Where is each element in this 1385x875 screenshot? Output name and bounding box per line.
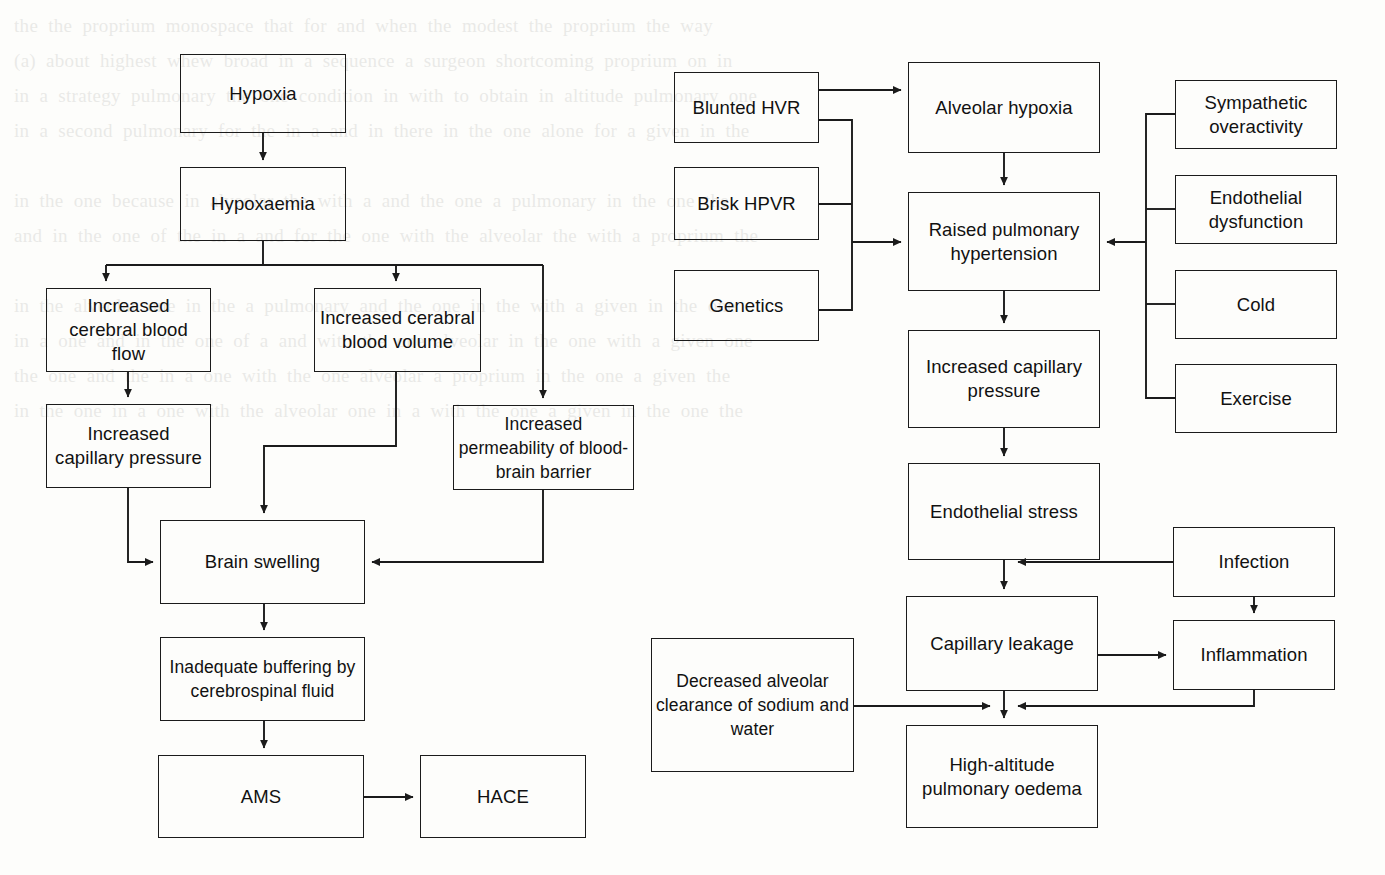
node-hypoxaemia[interactable]: Hypoxaemia — [180, 167, 346, 241]
node-high-altitude-pulmonary-oedema-label: High-altitude pulmonary oedema — [911, 753, 1093, 801]
node-increased-permeability-bbb-label: Increased permeability of blood-brain ba… — [458, 412, 629, 484]
node-inadequate-buffering-csf-label: Inadequate buffering by cerebrospinal fl… — [165, 655, 360, 703]
node-increased-capillary-pressure-cerebral[interactable]: Increased capillary pressure — [46, 404, 211, 488]
node-alveolar-hypoxia[interactable]: Alveolar hypoxia — [908, 62, 1100, 153]
edge-sympathetic-bus — [1146, 114, 1175, 242]
node-genetics-label: Genetics — [710, 294, 784, 318]
node-endothelial-dysfunction[interactable]: Endothelial dysfunction — [1175, 175, 1337, 244]
node-increased-cerebral-blood-flow-label: Increased cerebral blood flow — [51, 294, 206, 366]
edge-cbv-brain-swelling — [264, 372, 396, 513]
node-cold[interactable]: Cold — [1175, 270, 1337, 339]
node-inadequate-buffering-csf[interactable]: Inadequate buffering by cerebrospinal fl… — [160, 637, 365, 721]
node-inflammation-label: Inflammation — [1200, 643, 1307, 667]
edge-blunted-hvr-bus — [819, 120, 852, 242]
node-decreased-alveolar-clearance-label: Decreased alveolar clearance of sodium a… — [656, 669, 849, 741]
node-exercise[interactable]: Exercise — [1175, 364, 1337, 433]
edge-inflammation-hape — [1018, 690, 1254, 706]
node-increased-permeability-bbb[interactable]: Increased permeability of blood-brain ba… — [453, 405, 634, 490]
node-increased-capillary-pressure-pulmonary[interactable]: Increased capillary pressure — [908, 330, 1100, 428]
node-ams[interactable]: AMS — [158, 755, 364, 838]
edge-genetics-bus — [819, 242, 852, 310]
node-increased-cerebral-blood-volume[interactable]: Increased cerabral blood volume — [314, 288, 481, 372]
node-sympathetic-overactivity[interactable]: Sympathetic overactivity — [1175, 80, 1337, 149]
node-genetics[interactable]: Genetics — [674, 270, 819, 341]
node-brisk-hpvr[interactable]: Brisk HPVR — [674, 167, 819, 240]
node-increased-cerebral-blood-volume-label: Increased cerabral blood volume — [319, 306, 476, 354]
node-endothelial-stress-label: Endothelial stress — [930, 500, 1078, 524]
node-hypoxia[interactable]: Hypoxia — [180, 54, 346, 133]
node-decreased-alveolar-clearance[interactable]: Decreased alveolar clearance of sodium a… — [651, 638, 854, 772]
node-capillary-leakage-label: Capillary leakage — [930, 632, 1074, 656]
edge-perm-brain-swelling — [372, 490, 543, 562]
node-hace-label: HACE — [477, 785, 529, 809]
node-brain-swelling[interactable]: Brain swelling — [160, 520, 365, 604]
node-blunted-hvr[interactable]: Blunted HVR — [674, 72, 819, 143]
node-raised-pulmonary-hypertension[interactable]: Raised pulmonary hypertension — [908, 192, 1100, 291]
node-cold-label: Cold — [1237, 293, 1275, 317]
node-capillary-leakage[interactable]: Capillary leakage — [906, 596, 1098, 691]
node-blunted-hvr-label: Blunted HVR — [692, 96, 800, 120]
node-hace[interactable]: HACE — [420, 755, 586, 838]
node-increased-cerebral-blood-flow[interactable]: Increased cerebral blood flow — [46, 288, 211, 372]
node-exercise-label: Exercise — [1220, 387, 1292, 411]
node-brain-swelling-label: Brain swelling — [205, 550, 321, 574]
node-brisk-hpvr-label: Brisk HPVR — [697, 192, 796, 216]
node-ams-label: AMS — [241, 785, 281, 809]
node-increased-capillary-pressure-pulmonary-label: Increased capillary pressure — [913, 355, 1095, 403]
flowchart-page: the the proprium monospace that for and … — [0, 0, 1385, 875]
node-endothelial-stress[interactable]: Endothelial stress — [908, 463, 1100, 560]
node-raised-pulmonary-hypertension-label: Raised pulmonary hypertension — [913, 218, 1095, 266]
node-inflammation[interactable]: Inflammation — [1173, 620, 1335, 690]
edge-exercise-bus — [1146, 242, 1175, 398]
node-endothelial-dysfunction-label: Endothelial dysfunction — [1180, 186, 1332, 234]
node-alveolar-hypoxia-label: Alveolar hypoxia — [935, 96, 1072, 120]
node-sympathetic-overactivity-label: Sympathetic overactivity — [1180, 91, 1332, 139]
node-infection-label: Infection — [1219, 550, 1290, 574]
node-increased-capillary-pressure-cerebral-label: Increased capillary pressure — [51, 422, 206, 470]
node-high-altitude-pulmonary-oedema[interactable]: High-altitude pulmonary oedema — [906, 725, 1098, 828]
node-infection[interactable]: Infection — [1173, 527, 1335, 597]
node-hypoxaemia-label: Hypoxaemia — [211, 192, 315, 216]
node-hypoxia-label: Hypoxia — [229, 82, 297, 106]
edge-cap-pressure-brain-swelling — [128, 488, 153, 562]
